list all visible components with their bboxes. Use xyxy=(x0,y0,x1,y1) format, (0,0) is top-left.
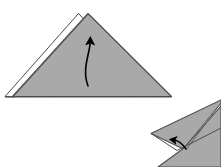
diagram-canvas xyxy=(0,0,221,167)
origami-diagram-svg xyxy=(0,0,221,167)
